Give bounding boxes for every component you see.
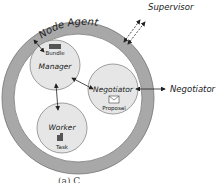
negotiator-node: Negotiator Proposal [88, 64, 138, 114]
supervisor-arrow-1 [124, 20, 140, 42]
worker-label: Worker [48, 123, 76, 132]
figure-caption: (a) C [58, 176, 80, 183]
bundle-label: Bundle [45, 50, 65, 56]
task-label: Task [55, 144, 69, 150]
manager-node: Bundle Manager [30, 40, 80, 90]
worker-node: Worker Task [37, 103, 87, 153]
node-agent-diagram: Node Agent Bundle Manager Negotiator Pro… [0, 0, 221, 183]
proposal-label: Proposal [102, 105, 126, 112]
bundle-icon [49, 44, 61, 49]
external-negotiator-label: Negotiator [170, 84, 216, 94]
supervisor-label: Supervisor [148, 2, 194, 12]
negotiator-label: Negotiator [93, 85, 134, 94]
envelope-icon [109, 96, 119, 103]
manager-label: Manager [39, 62, 73, 71]
